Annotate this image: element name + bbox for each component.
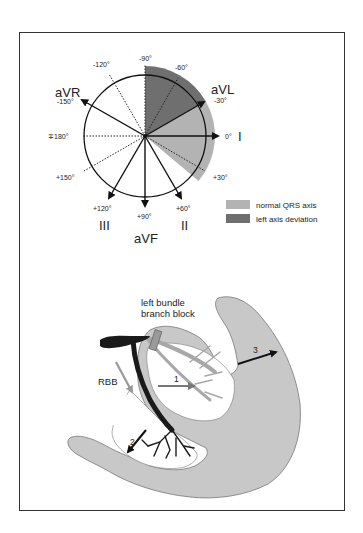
center-dot — [143, 134, 147, 138]
arrow-2-label: 2 — [130, 437, 135, 447]
label-plus-120: +120° — [93, 205, 112, 212]
lead-label-aVF: aVF — [134, 231, 158, 246]
arrow-3-label: 3 — [253, 345, 258, 355]
legend-swatch-normal — [226, 200, 250, 209]
arrow-1-label: 1 — [174, 374, 179, 384]
label-plus-150: +150° — [56, 174, 75, 181]
lead-III-arrow — [109, 136, 145, 198]
lead-label-II: II — [181, 218, 188, 233]
label-minus-30: -30° — [214, 97, 227, 104]
lead-label-I: I — [238, 129, 242, 144]
hexaxial-diagram: -90° -60° -120° -150° -30° 0° ∓180° +30°… — [48, 55, 317, 246]
block-label-line1: left bundle — [141, 297, 185, 308]
legend: normal QRS axis left axis deviation — [226, 200, 317, 224]
label-plus-30: +30° — [213, 174, 228, 181]
heart-diagram: left bundle branch block RBB 1 2 3 — [68, 297, 301, 498]
label-plus-90: +90° — [137, 213, 152, 220]
lead-label-aVR: aVR — [55, 85, 80, 100]
label-minus-90: -90° — [139, 55, 152, 62]
label-plus-minus-180: ∓180° — [48, 133, 69, 140]
lead-label-III: III — [99, 218, 110, 233]
label-plus-60: +60° — [176, 205, 191, 212]
label-minus-60: -60° — [175, 64, 188, 71]
label-0: 0° — [225, 133, 232, 140]
legend-swatch-left-deviation — [226, 214, 250, 223]
block-label-line2: branch block — [141, 308, 195, 319]
lead-aVR-arrow — [82, 100, 145, 136]
legend-label-normal: normal QRS axis — [256, 201, 316, 210]
label-minus-120: -120° — [93, 61, 110, 68]
lead-label-aVL: aVL — [211, 82, 234, 97]
figure-canvas: -90° -60° -120° -150° -30° 0° ∓180° +30°… — [0, 0, 363, 533]
rbb-label: RBB — [98, 376, 118, 387]
legend-label-left-deviation: left axis deviation — [256, 215, 317, 224]
